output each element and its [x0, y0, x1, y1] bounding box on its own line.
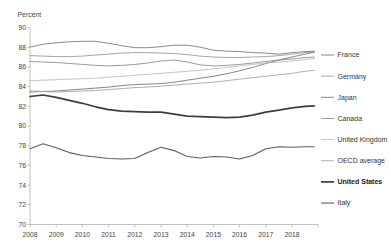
series-line-germany	[30, 52, 314, 57]
x-tick-label-2018: 2018	[284, 231, 299, 238]
y-tick-label-70: 70	[18, 221, 26, 228]
legend-label-canada: Canada	[338, 115, 363, 122]
x-tick-label-2013: 2013	[153, 231, 168, 238]
legend-label-france: France	[338, 51, 360, 58]
y-tick-label-82: 82	[18, 103, 26, 110]
y-tick-label-86: 86	[18, 63, 26, 70]
x-tick-label-2014: 2014	[180, 231, 195, 238]
legend-label-united-states: United States	[338, 178, 383, 185]
y-tick-label-72: 72	[18, 201, 26, 208]
series-line-canada	[30, 57, 314, 66]
x-tick-label-2011: 2011	[101, 231, 116, 238]
line-chart-panel: Percent 70727476788082848688902008200920…	[0, 0, 391, 248]
series-line-united-states	[30, 95, 314, 118]
y-tick-label-74: 74	[18, 182, 26, 189]
y-tick-label-84: 84	[18, 83, 26, 90]
legend-label-oecd-average: OECD average	[338, 157, 386, 165]
y-tick-label-88: 88	[18, 44, 26, 51]
legend-label-germany: Germany	[338, 73, 367, 81]
x-tick-label-2009: 2009	[49, 231, 64, 238]
x-tick-label-2015: 2015	[206, 231, 221, 238]
y-tick-label-80: 80	[18, 122, 26, 129]
legend-label-japan: Japan	[338, 94, 357, 102]
x-tick-label-2008: 2008	[22, 231, 37, 238]
x-tick-label-2016: 2016	[232, 231, 247, 238]
series-line-italy	[30, 144, 314, 159]
legend-label-italy: Italy	[338, 199, 351, 207]
chart-canvas: Percent 70727476788082848688902008200920…	[0, 0, 391, 248]
series-line-france	[30, 41, 314, 54]
series-line-oecd-average	[30, 70, 314, 92]
y-tick-label-76: 76	[18, 162, 26, 169]
y-tick-label-78: 78	[18, 142, 26, 149]
x-tick-label-2012: 2012	[127, 231, 142, 238]
y-tick-label-90: 90	[18, 24, 26, 31]
x-tick-label-2017: 2017	[258, 231, 273, 238]
x-tick-label-2010: 2010	[75, 231, 90, 238]
y-axis-title: Percent	[18, 11, 42, 18]
legend-label-united-kingdom: United Kingdom	[338, 136, 388, 144]
